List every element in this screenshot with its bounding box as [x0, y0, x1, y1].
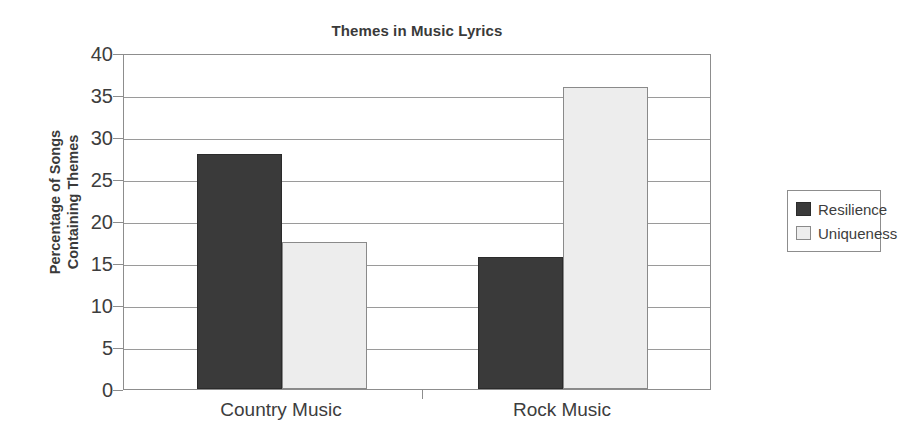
y-tick-mark [113, 54, 123, 55]
bar-rock-music-uniqueness [563, 87, 648, 389]
y-tick-label: 5 [65, 338, 113, 358]
y-tick-mark [113, 96, 123, 97]
legend-item-uniqueness: Uniqueness [796, 222, 880, 244]
legend-item-resilience: Resilience [796, 198, 880, 220]
x-axis-separator-tick [422, 390, 423, 399]
x-category-label-country-music: Country Music [171, 399, 391, 421]
y-tick-label: 35 [65, 86, 113, 106]
y-tick-mark [113, 306, 123, 307]
legend-dark-swatch-icon [796, 202, 811, 216]
chart-legend: Resilience Uniqueness [787, 190, 881, 252]
y-tick-label: 15 [65, 254, 113, 274]
y-tick-mark [113, 264, 123, 265]
bar-rock-music-resilience [478, 257, 563, 389]
y-tick-label: 40 [65, 44, 113, 64]
legend-label-resilience: Resilience [818, 201, 887, 218]
plot-area [123, 54, 711, 390]
y-tick-label: 10 [65, 296, 113, 316]
y-tick-label: 20 [65, 212, 113, 232]
y-tick-mark [113, 222, 123, 223]
legend-light-swatch-icon [796, 226, 811, 240]
y-tick-mark [113, 180, 123, 181]
y-tick-mark [113, 348, 123, 349]
y-axis-tick-labels: 0510152025303540 [55, 54, 113, 390]
bar-country-music-resilience [197, 154, 282, 389]
y-tick-label: 0 [65, 380, 113, 400]
y-tick-label: 25 [65, 170, 113, 190]
x-category-label-rock-music: Rock Music [452, 399, 672, 421]
legend-label-uniqueness: Uniqueness [818, 225, 897, 242]
y-tick-label: 30 [65, 128, 113, 148]
bar-country-music-uniqueness [282, 242, 367, 389]
bar-chart: Themes in Music Lyrics Percentage of Son… [0, 0, 910, 442]
chart-title: Themes in Music Lyrics [123, 22, 711, 39]
y-tick-mark [113, 390, 123, 391]
y-tick-mark [113, 138, 123, 139]
